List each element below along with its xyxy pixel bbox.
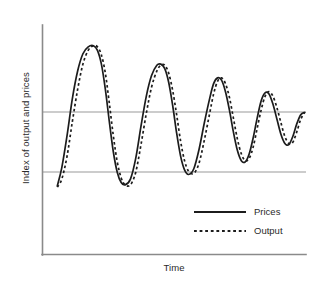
series-line-prices xyxy=(57,45,304,186)
legend-label-output: Output xyxy=(254,225,283,236)
x-axis-label: Time xyxy=(42,262,306,273)
chart-plot-area xyxy=(0,0,332,282)
series-line-output xyxy=(57,45,304,187)
legend-label-prices: Prices xyxy=(254,206,280,217)
y-axis-label: Index of output and prices xyxy=(20,38,34,218)
chart-figure: Index of output and prices Time Prices O… xyxy=(0,0,332,282)
